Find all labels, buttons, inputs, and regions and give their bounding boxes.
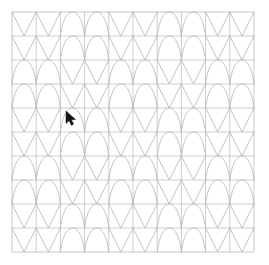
pattern-grid-canvas[interactable]: [0, 0, 269, 265]
pattern-app-root: [0, 0, 269, 265]
